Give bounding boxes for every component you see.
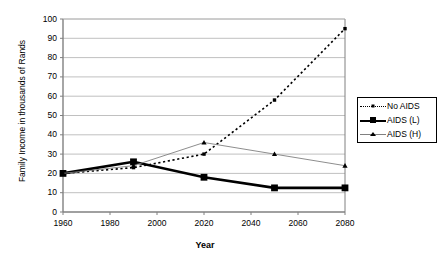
marker-no-aids [202,152,205,155]
x-tick-label: 2080 [325,219,365,228]
y-tick-label: 70 [29,72,57,81]
marker-aids-l [342,184,349,191]
x-tick-label: 1960 [43,219,83,228]
x-axis-title: Year [60,240,350,250]
x-tick-label: 2020 [184,219,224,228]
x-tick-label: 2040 [231,219,271,228]
legend-key-aids-l-icon [360,114,386,126]
legend-label-aids-l: AIDS (L) [386,116,420,125]
legend-item-aids-l: AIDS (L) [360,113,436,127]
y-tick-label: 10 [29,188,57,197]
y-axis-title: Family Income in thousands of Rands [17,31,27,191]
legend-label-no-aids: No AIDS [386,102,420,111]
y-tick-label: 50 [29,111,57,120]
x-tick-label: 2060 [278,219,318,228]
marker-aids-l [201,174,208,181]
y-tick-label: 100 [29,15,57,24]
x-tick-label: 2000 [137,219,177,228]
y-tick-label: 20 [29,169,57,178]
legend-key-aids-h-icon [360,128,386,140]
legend-item-no-aids: No AIDS [360,99,436,113]
y-tick-label: 90 [29,34,57,43]
marker-aids-l [271,184,278,191]
legend-item-aids-h: AIDS (H) [360,127,436,141]
y-tick-label: 30 [29,150,57,159]
legend: No AIDS AIDS (L) AIDS (H) [357,97,437,143]
y-tick-label: 0 [29,208,57,217]
y-tick-label: 40 [29,130,57,139]
chart-container: Family Income in thousands of Rands Year… [0,0,446,262]
marker-no-aids [343,27,346,30]
y-tick-label: 80 [29,53,57,62]
x-tick-label: 1980 [90,219,130,228]
marker-no-aids [273,98,276,101]
legend-label-aids-h: AIDS (H) [386,130,421,139]
legend-key-no-aids-icon [360,100,386,112]
y-tick-label: 60 [29,92,57,101]
